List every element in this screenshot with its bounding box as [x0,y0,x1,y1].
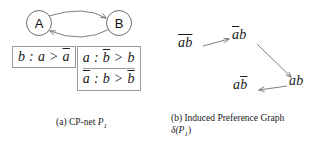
caption-a-text: CP-net [69,117,95,127]
preference-graph: ab ab ab ab [163,0,326,110]
cpt-row-b-1: a : b > b [83,68,135,88]
cpt-table-b: a : b > b a : b > b [77,46,141,91]
pref-node-ab: ab [289,74,303,88]
edge-n0-to-n1 [203,39,229,46]
pref-node-label-plain: b [239,27,246,42]
cp-net-node-b-label: B [115,16,124,31]
cp-net-node-a-label: A [35,16,44,31]
cpt-better: b [103,50,110,65]
edge-n2-to-n3 [259,86,287,90]
cp-net-graph: A B [20,4,142,46]
cpt-worse: b [127,50,134,65]
cpt-worse: b [127,71,134,86]
pref-node-label-bar: b [240,77,247,92]
caption-a-subscript: 1 [104,122,108,130]
cpt-table-a: b : a > a [12,46,76,68]
edge-n1-to-n2 [257,44,291,77]
pref-node-label: ab [289,73,303,88]
caption-panel-b: (b) Induced Preference Graph δ(P1) [171,112,322,140]
figure-container: A B b : a > a a : b > b a : b > b [0,0,326,152]
preference-graph-edges [163,0,326,110]
edge-b-to-a [50,29,110,37]
pref-node-abar-b: ab [232,28,246,42]
pref-node-a-bbar: ab [233,78,247,92]
caption-b-prefix: (b) [171,113,182,123]
cpt-tables: b : a > a a : b > b a : b > b [12,46,141,91]
pref-node-label: ab [178,35,192,50]
caption-b-suffix: ) [188,125,191,135]
pref-node-ab-bar-both: ab [178,36,192,50]
cp-net-node-a: A [26,10,52,36]
caption-panel-a: (a) CP-net P1 [0,116,163,132]
panel-preference-graph: ab ab ab ab (b) Induced Preference Graph… [163,0,326,152]
caption-b-symbol: δ(P [171,125,184,135]
caption-a-prefix: (a) [56,117,67,127]
cpt-better: b [103,71,110,86]
cpt-worse: a [63,49,70,64]
cpt-row-b-0: a : b > b [83,49,135,67]
caption-b-text: Induced Preference Graph [184,113,284,123]
panel-cp-net: A B b : a > a a : b > b a : b > b [0,0,163,152]
cpt-row-a-0: b : a > a [18,48,70,66]
cp-net-node-b: B [106,10,132,36]
edge-a-to-b [49,11,106,18]
